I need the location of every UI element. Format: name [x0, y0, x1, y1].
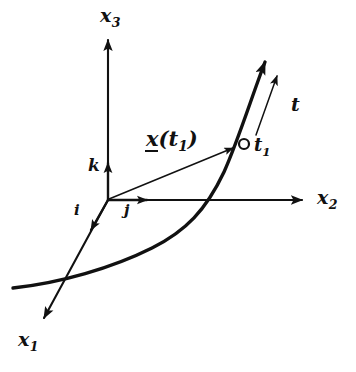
unit-vector-label-i: i: [74, 203, 80, 218]
space-curve-path: [13, 62, 265, 288]
space-curve: [13, 62, 265, 288]
position-vector-label-symbol: x: [146, 128, 159, 150]
tangent-vector-label: t: [291, 95, 300, 114]
axis-label-x3: x3: [100, 6, 121, 29]
figure-canvas: x3 x2 x1 k i j x(t1) t1 t: [0, 0, 356, 372]
position-vector-label-sub: 1: [178, 138, 188, 154]
position-vector-label: x(t1): [146, 128, 198, 154]
position-vector-label-open: (t: [159, 126, 179, 151]
point-marker-circle: [239, 139, 249, 149]
axis-label-x3-sub: 3: [112, 15, 121, 30]
axis-label-x2-base: x: [317, 186, 329, 208]
unit-vector-i-arrow: [91, 200, 108, 230]
axis-label-x3-base: x: [100, 4, 112, 26]
axis-label-x2-sub: 2: [329, 197, 338, 212]
position-vector-label-close: ): [188, 126, 198, 151]
unit-vector-label-k: k: [88, 157, 100, 174]
axis-label-x1-sub: 1: [30, 339, 39, 354]
unit-vector-label-j: j: [124, 203, 129, 218]
point-label-t1-sub: 1: [262, 145, 270, 159]
tangent-vector: [256, 76, 277, 135]
axis-label-x1: x1: [18, 330, 39, 353]
unit-vector-i: [91, 200, 108, 230]
space-curve-diagram: [0, 0, 356, 372]
axis-label-x1-base: x: [18, 328, 30, 350]
axis-label-x2: x2: [317, 188, 338, 211]
tangent-vector-arrow: [256, 76, 277, 135]
point-marker-t1: [239, 139, 249, 149]
point-label-t1: t1: [254, 136, 271, 158]
